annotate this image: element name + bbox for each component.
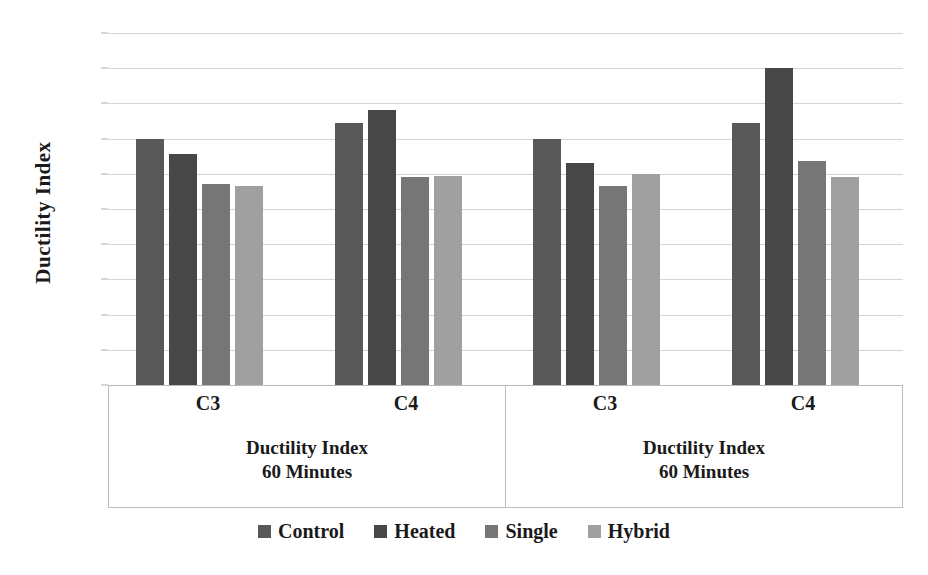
bar: [335, 123, 363, 385]
legend-item[interactable]: Control: [258, 520, 344, 543]
legend-item[interactable]: Hybrid: [588, 520, 670, 543]
x-axis-group-label: Ductility Index60 Minutes: [109, 436, 505, 484]
legend-item[interactable]: Single: [485, 520, 557, 543]
legend-label: Hybrid: [608, 520, 670, 543]
bar: [732, 123, 760, 385]
x-axis-category-label: C4: [307, 392, 505, 415]
legend-item[interactable]: Heated: [374, 520, 455, 543]
x-axis-category-label: C3: [506, 392, 704, 415]
bar: [202, 184, 230, 385]
x-axis-category-label: C3: [109, 392, 307, 415]
y-axis-tick-mark: [101, 173, 108, 174]
legend-label: Heated: [394, 520, 455, 543]
y-axis-tick-mark: [101, 349, 108, 350]
bar: [169, 154, 197, 385]
x-axis-panel: C3C4Ductility Index60 Minutes: [108, 386, 505, 508]
y-axis-title: Ductility Index: [31, 108, 56, 318]
y-axis-tick-mark: [101, 68, 108, 69]
bar: [434, 176, 462, 385]
x-axis-group-label-line1: Ductility Index: [109, 436, 505, 460]
legend-swatch-icon: [588, 525, 601, 538]
x-axis-category-row: C3C4: [506, 392, 902, 415]
x-axis-group-label-line1: Ductility Index: [506, 436, 902, 460]
legend-label: Control: [278, 520, 344, 543]
legend-swatch-icon: [374, 525, 387, 538]
bar: [235, 186, 263, 385]
x-axis-category-label: C4: [704, 392, 902, 415]
x-axis-category-row: C3C4: [109, 392, 505, 415]
y-axis-tick-mark: [101, 103, 108, 104]
bar-chart: Ductility Index 21.81.61.41.210.80.60.40…: [0, 0, 928, 575]
y-axis-tick-mark: [101, 138, 108, 139]
y-axis-tick-mark: [101, 209, 108, 210]
x-axis-category-panels: C3C4Ductility Index60 MinutesC3C4Ductili…: [108, 386, 903, 508]
bar: [368, 110, 396, 385]
x-axis-panel: C3C4Ductility Index60 Minutes: [505, 386, 903, 508]
bar: [765, 68, 793, 385]
legend-swatch-icon: [258, 525, 271, 538]
plot-area: [108, 33, 903, 385]
bar: [632, 174, 660, 385]
bar: [566, 163, 594, 385]
bar: [136, 139, 164, 385]
x-axis-group-label: Ductility Index60 Minutes: [506, 436, 902, 484]
y-axis-tick-mark: [101, 33, 108, 34]
y-axis-tick-mark: [101, 244, 108, 245]
y-axis-tick-mark: [101, 385, 108, 386]
y-axis-tick-mark: [101, 314, 108, 315]
bar: [798, 161, 826, 385]
y-axis-tick-mark: [101, 279, 108, 280]
bar: [401, 177, 429, 385]
bar: [533, 139, 561, 385]
bars-layer: [108, 33, 903, 385]
x-axis-group-label-line2: 60 Minutes: [109, 460, 505, 484]
x-axis-group-label-line2: 60 Minutes: [506, 460, 902, 484]
legend: ControlHeatedSingleHybrid: [0, 520, 928, 543]
legend-swatch-icon: [485, 525, 498, 538]
bar: [831, 177, 859, 385]
bar: [599, 186, 627, 385]
legend-label: Single: [505, 520, 557, 543]
